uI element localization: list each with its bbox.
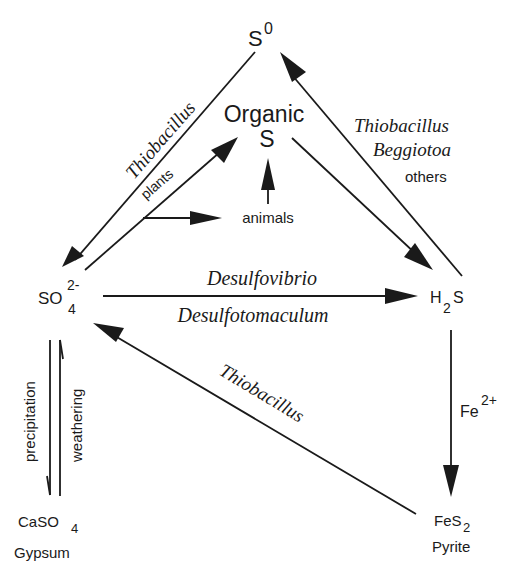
pyrite-formula: FeS (434, 512, 462, 529)
precipitation-label: precipitation (21, 381, 38, 462)
organic-line2: S (259, 126, 274, 152)
edge-sulfate-to-gypsum: precipitation (21, 340, 50, 495)
node-s0: S 0 (248, 20, 273, 51)
sulfate-sub: 4 (68, 301, 76, 317)
node-pyrite: FeS 2 Pyrite (432, 512, 470, 555)
node-animals: animals (242, 209, 294, 226)
arrowhead-icon (211, 137, 238, 163)
edge-plants-to-animals (143, 211, 222, 225)
arrowhead-icon (190, 211, 222, 225)
h2s-sub: 2 (443, 300, 451, 316)
sulfate-base: SO (38, 289, 63, 308)
desulfovibrio-label: Desulfovibrio (206, 267, 317, 290)
h2s-s0-label-3: others (405, 168, 447, 185)
arrow-line (75, 52, 255, 260)
h2s-s0-label-2: Beggiotoa (373, 139, 451, 160)
edge-h2s-to-pyrite: Fe 2+ (443, 330, 497, 497)
fe-label-base: Fe (460, 403, 479, 420)
h2s-base1: H (430, 289, 442, 306)
edge-sulfate-to-organic: plants (85, 137, 238, 270)
fe-label-sup: 2+ (481, 392, 497, 408)
h2s-s0-label-1: Thiobacillus (354, 115, 449, 136)
sulfate-sup: 2- (67, 277, 80, 293)
pyrite-sulfate-label: Thiobacillus (216, 359, 308, 426)
edge-pyrite-to-sulfate: Thiobacillus (93, 323, 416, 514)
pyrite-sub: 2 (463, 520, 470, 535)
desulfotomaculum-label: Desulfotomaculum (176, 304, 328, 327)
arrow-line (85, 145, 228, 270)
node-h2s: H 2 S (430, 289, 464, 316)
edge-animals-to-organic (261, 158, 275, 204)
node-sulfate: SO 2- 4 (38, 277, 80, 317)
s0-sup: 0 (264, 20, 273, 37)
edge-s0-to-sulfate: Thiobacillus (62, 52, 255, 267)
arrowhead-icon (385, 288, 418, 304)
node-gypsum: CaSO 4 Gypsum (14, 513, 78, 561)
sulfur-cycle-diagram: S 0 Organic S animals SO 2- 4 H 2 S CaSO… (0, 0, 525, 582)
animals-label: animals (242, 209, 294, 226)
arrowhead-icon (261, 158, 275, 190)
s0-base: S (248, 26, 263, 51)
arrowhead-icon (62, 246, 84, 267)
pyrite-name: Pyrite (432, 538, 470, 555)
edge-gypsum-to-sulfate: weathering (60, 340, 85, 496)
node-organic-s: Organic S (224, 101, 305, 152)
weathering-label: weathering (68, 389, 85, 463)
arrowhead-icon (280, 52, 306, 82)
arrow-line (110, 333, 416, 514)
gypsum-sub: 4 (71, 521, 78, 536)
organic-line1: Organic (224, 101, 305, 127)
gypsum-name: Gypsum (14, 544, 70, 561)
gypsum-formula: CaSO (18, 513, 59, 530)
arrowhead-icon (443, 465, 459, 497)
edge-h2s-to-s0: Thiobacillus Beggiotoa others (280, 52, 462, 276)
edge-sulfate-to-h2s: Desulfovibrio Desulfotomaculum (103, 267, 418, 327)
h2s-base2: S (453, 289, 464, 306)
